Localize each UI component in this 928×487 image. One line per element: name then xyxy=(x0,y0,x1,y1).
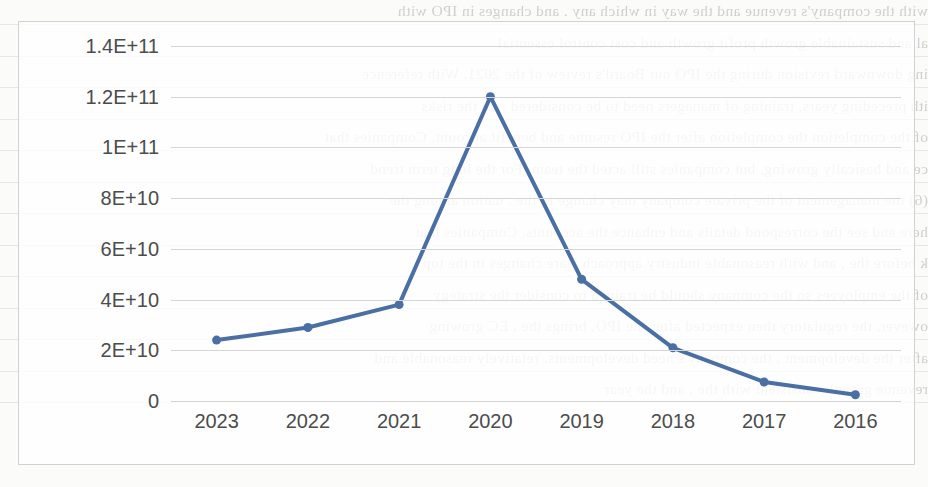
chart-plot-area: 1.4E+111.2E+111E+118E+106E+104E+102E+100… xyxy=(19,22,916,466)
chart-gridline xyxy=(171,300,901,301)
x-axis-tick-label: 2018 xyxy=(625,410,721,433)
chart-gridline xyxy=(171,46,901,47)
x-axis-tick-label: 2021 xyxy=(351,410,447,433)
chart-gridline xyxy=(171,97,901,98)
y-axis-tick-label: 8E+10 xyxy=(27,187,159,210)
chart-gridline xyxy=(171,147,901,148)
chart-data-point[interactable] xyxy=(212,336,221,345)
x-axis-tick-label: 2019 xyxy=(534,410,630,433)
y-axis-tick-label: 2E+10 xyxy=(27,339,159,362)
chart-data-point[interactable] xyxy=(760,378,769,387)
y-axis-tick-label: 1E+11 xyxy=(27,136,159,159)
chart-gridline xyxy=(171,350,901,351)
chart-gridline xyxy=(171,401,901,402)
chart-gridline xyxy=(171,249,901,250)
showthrough-line: with the company's revenue and the way i… xyxy=(0,2,928,20)
chart-gridline xyxy=(171,198,901,199)
y-axis-tick-label: 1.2E+11 xyxy=(27,85,159,108)
y-axis-tick-label: 4E+10 xyxy=(27,288,159,311)
x-axis-tick-label: 2022 xyxy=(260,410,356,433)
chart-container: 1.4E+111.2E+111E+118E+106E+104E+102E+100… xyxy=(18,21,915,465)
chart-data-point[interactable] xyxy=(395,300,404,309)
chart-data-point[interactable] xyxy=(851,390,860,399)
scanned-page: with the company's revenue and the way i… xyxy=(0,0,928,487)
x-axis-tick-label: 2020 xyxy=(442,410,538,433)
x-axis-tick-label: 2023 xyxy=(169,410,265,433)
x-axis-tick-label: 2017 xyxy=(716,410,812,433)
chart-data-point[interactable] xyxy=(303,323,312,332)
y-axis-tick-label: 1.4E+11 xyxy=(27,35,159,58)
chart-data-point[interactable] xyxy=(577,275,586,284)
y-axis-tick-label: 6E+10 xyxy=(27,237,159,260)
x-axis-tick-label: 2016 xyxy=(807,410,903,433)
y-axis-tick-label: 0 xyxy=(27,390,159,413)
